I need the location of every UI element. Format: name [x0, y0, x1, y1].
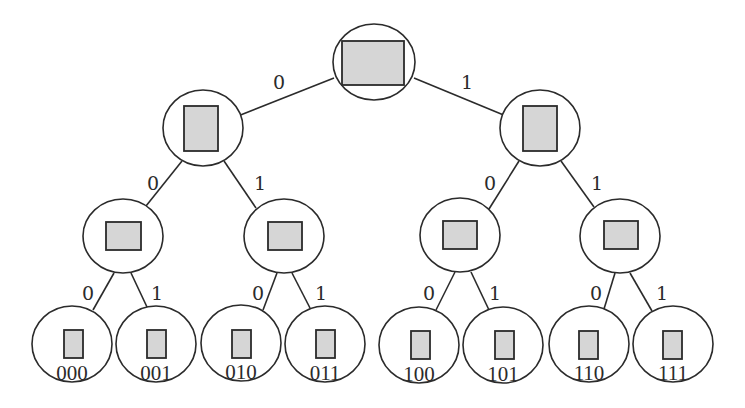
- leaf-node: 011: [285, 306, 365, 385]
- tree-edge: 1: [630, 273, 668, 311]
- edge-label: 1: [315, 282, 327, 304]
- tree-edge: 0: [146, 161, 182, 206]
- node-box: [411, 331, 430, 359]
- edge-line: [238, 78, 334, 116]
- tree-edge: 0: [82, 273, 114, 310]
- tree-edge: 0: [238, 71, 334, 116]
- tree-edge: 1: [561, 161, 603, 207]
- edge-line: [471, 272, 489, 310]
- tree-edge: 0: [590, 273, 615, 309]
- edge-label: 0: [484, 172, 496, 194]
- edge-label: 1: [151, 282, 163, 304]
- node-box: [663, 331, 682, 359]
- leaf-label: 110: [574, 361, 605, 385]
- node-box: [64, 330, 83, 358]
- tree-node: [244, 199, 324, 273]
- edge-label: 1: [591, 172, 603, 194]
- tree-node: [420, 198, 500, 272]
- leaf-label: 001: [140, 361, 172, 385]
- tree-edge: 1: [414, 71, 506, 116]
- node-box: [106, 222, 141, 250]
- edge-line: [561, 161, 594, 207]
- tree-node: [163, 90, 243, 166]
- edge-label: 1: [461, 71, 473, 93]
- edge-line: [93, 273, 114, 310]
- tree-node: [580, 199, 660, 273]
- leaf-node: 101: [463, 307, 543, 386]
- node-box: [268, 222, 302, 250]
- tree-edge: 1: [292, 273, 327, 308]
- tree-edge: 0: [252, 273, 277, 310]
- edge-label: 0: [273, 71, 285, 93]
- tree-node: [83, 199, 163, 273]
- node-box: [232, 330, 251, 358]
- edge-label: 0: [82, 282, 94, 304]
- leaf-node: 110: [549, 306, 629, 385]
- node-box: [147, 330, 166, 358]
- tree-edge: 1: [224, 161, 266, 208]
- edge-line: [263, 273, 277, 310]
- leaf-label: 011: [310, 361, 341, 385]
- edge-line: [131, 273, 147, 307]
- node-box: [604, 221, 638, 249]
- edge-label: 0: [423, 282, 435, 304]
- leaf-node: 000: [32, 306, 112, 385]
- edge-label: 0: [252, 282, 264, 304]
- node-box: [184, 106, 218, 151]
- node-box: [443, 221, 477, 249]
- node-box: [523, 106, 557, 151]
- leaf-label: 101: [487, 362, 519, 386]
- node-box: [495, 331, 514, 359]
- leaf-node: 010: [201, 305, 281, 384]
- leaf-node: 001: [116, 306, 196, 385]
- node-box: [579, 331, 598, 359]
- binary-tree-diagram: 01010101010101 000001010011100101110111: [0, 0, 745, 408]
- tree-edge: 1: [471, 272, 501, 310]
- leaf-label: 111: [658, 361, 688, 385]
- edge-label: 1: [489, 282, 501, 304]
- tree-edge: 1: [131, 273, 163, 307]
- edge-label: 1: [656, 282, 668, 304]
- edge-line: [436, 272, 455, 310]
- edge-label: 0: [147, 172, 159, 194]
- tree-edge: 0: [423, 272, 455, 310]
- tree-node: [500, 90, 580, 166]
- edge-line: [224, 161, 256, 208]
- leaf-label: 000: [56, 361, 88, 385]
- tree-edge: 0: [484, 161, 519, 209]
- nodes-layer: 000001010011100101110111: [32, 24, 713, 386]
- leaf-label: 010: [225, 360, 257, 384]
- leaf-label: 100: [403, 362, 435, 386]
- leaf-node: 100: [379, 307, 459, 386]
- node-box: [316, 330, 335, 358]
- edge-line: [630, 273, 652, 311]
- tree-node: [333, 24, 415, 100]
- edge-label: 1: [254, 172, 266, 194]
- edge-line: [604, 273, 615, 309]
- edge-label: 0: [590, 282, 602, 304]
- leaf-node: 111: [633, 306, 713, 385]
- edge-line: [292, 273, 310, 308]
- node-box: [342, 41, 404, 85]
